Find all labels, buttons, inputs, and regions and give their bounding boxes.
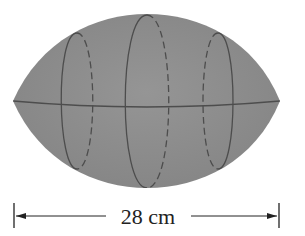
dimension-label: 28 cm [121, 204, 175, 229]
right-arrow-head [267, 213, 277, 219]
left-arrow-head [16, 213, 26, 219]
football-body [13, 14, 280, 188]
football-diagram: 28 cm [0, 0, 305, 236]
diagram-canvas: 28 cm [0, 0, 305, 236]
